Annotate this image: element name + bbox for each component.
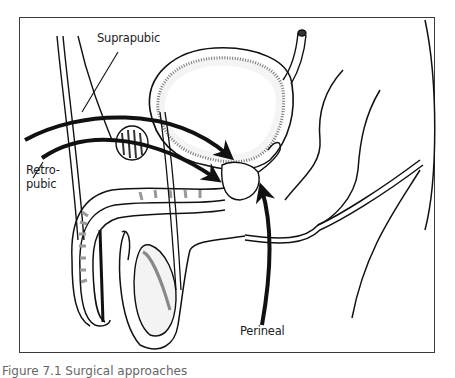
label-perineal: Perineal xyxy=(240,324,285,338)
figure-caption: Figure 7.1 Surgical approaches xyxy=(2,364,187,378)
testis xyxy=(134,245,176,336)
perineal-arrow xyxy=(262,190,270,325)
label-suprapubic: Suprapubic xyxy=(97,31,160,45)
prostate xyxy=(222,162,259,200)
label-retropubic-line2: pubic xyxy=(26,177,56,191)
suprapubic-leader-line xyxy=(82,52,118,112)
ureter xyxy=(283,30,306,84)
label-retropubic-line1: Retro- xyxy=(26,163,60,177)
